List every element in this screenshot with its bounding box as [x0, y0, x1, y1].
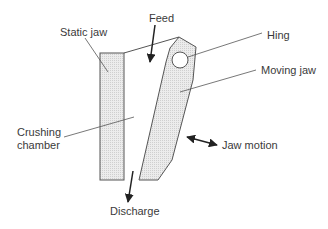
label-static-jaw: Static jaw [60, 26, 107, 39]
label-discharge: Discharge [110, 205, 160, 218]
jaw-motion-arrow-icon [187, 137, 217, 145]
label-hinge: Hing [267, 29, 290, 42]
label-moving-jaw: Moving jaw [261, 64, 316, 77]
label-crushing-chamber-2: chamber [17, 139, 60, 152]
label-jaw-motion: Jaw motion [222, 139, 278, 152]
label-feed: Feed [149, 12, 174, 25]
hinge-circle [172, 52, 188, 68]
feed-arrow-icon [150, 25, 155, 62]
discharge-arrow-icon [128, 171, 133, 202]
label-crushing-chamber-1: Crushing [17, 126, 61, 139]
static-jaw [100, 53, 124, 180]
leader-hinge [188, 33, 262, 57]
